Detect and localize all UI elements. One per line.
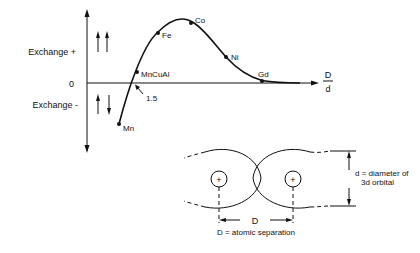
point-mn [117, 122, 121, 126]
d-left-arrow-icon [219, 218, 226, 222]
crossing-value: 1.5 [146, 94, 158, 103]
right-orbital-dashed-top [310, 151, 330, 152]
antiparallel-spin-arrows-icon [96, 94, 111, 115]
orbital-diameter-dimension: d = diameter of 3d orbital [330, 151, 409, 206]
left-orbital-dashed-bottom [184, 201, 205, 207]
left-nucleus-plus-icon: + [216, 175, 221, 185]
label-co: Co [195, 16, 206, 25]
point-gd [260, 79, 264, 83]
point-co [189, 21, 193, 25]
exchange-positive-label: Exchange + [28, 47, 76, 57]
point-ni [224, 55, 228, 59]
label-gd: Gd [258, 70, 269, 79]
label-fe: Fe [162, 31, 172, 40]
label-ni: Ni [231, 53, 239, 62]
diameter-label-line2: 3d orbital [361, 178, 394, 187]
zero-label: 0 [69, 79, 74, 89]
bethe-slater-figure: Exchange + 0 Exchange - D d [0, 0, 420, 253]
label-mn: Mn [123, 124, 134, 133]
diameter-down-arrow-icon [347, 199, 351, 206]
parallel-spin-arrows-icon [96, 31, 109, 52]
diameter-label-line1: d = diameter of [355, 169, 409, 178]
atomic-separation-dimension: D D = atomic separation [217, 216, 295, 238]
left-orbital-dashed-top [184, 152, 205, 158]
label-mncual: MnCuAl [141, 70, 170, 79]
x-axis-arrow-icon [311, 81, 319, 86]
y-axis-down-arrow-icon [85, 145, 90, 153]
diameter-up-arrow-icon [347, 151, 351, 158]
point-mncual [135, 70, 139, 74]
point-fe [156, 31, 160, 35]
orbital-diagram: + + D D = atomic separation d = diameter… [184, 149, 409, 237]
x-label-numerator: D [325, 70, 332, 80]
x-label-denominator: d [325, 84, 330, 94]
exchange-negative-label: Exchange - [32, 100, 78, 110]
y-axis-up-arrow-icon [85, 9, 90, 17]
left-orbital-arc [205, 149, 261, 208]
separation-caption: D = atomic separation [217, 228, 295, 237]
right-orbital-dashed-bottom [310, 206, 330, 207]
d-right-arrow-icon [286, 218, 293, 222]
crossing-annotation: 1.5 [135, 85, 158, 104]
separation-label: D [252, 216, 259, 226]
x-axis-label: D d [323, 70, 333, 94]
exchange-chart: Exchange + 0 Exchange - D d [28, 9, 333, 153]
right-nucleus-plus-icon: + [290, 175, 295, 185]
